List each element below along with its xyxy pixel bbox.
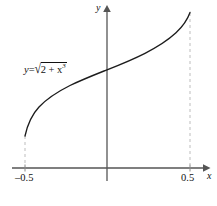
x-axis bbox=[12, 164, 211, 172]
equation-radicand: 2 + x3 bbox=[41, 62, 67, 75]
x-tick-label-left: –0.5 bbox=[15, 173, 33, 184]
y-axis-label: y bbox=[96, 3, 100, 13]
equation-radicand-exponent: 3 bbox=[62, 62, 66, 70]
radical-sign-icon: √ bbox=[35, 61, 42, 75]
equation-annotation: y=√2 + x3 bbox=[24, 62, 67, 75]
equation-radicand-base: 2 + x bbox=[41, 64, 63, 75]
x-tick-label-right: 0.5 bbox=[181, 173, 194, 184]
y-axis-arrowhead bbox=[103, 5, 111, 12]
y-axis bbox=[103, 5, 111, 181]
function-plot-figure: y x –0.5 0.5 y=√2 + x3 bbox=[0, 0, 217, 206]
x-axis-label: x bbox=[207, 171, 211, 181]
